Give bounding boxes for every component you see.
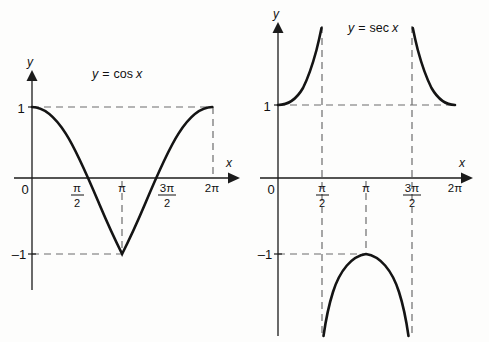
secant-branch-middle-lower	[324, 254, 409, 336]
cos-title-function: cos	[114, 67, 133, 81]
sec-xtick-two-pi: 2π	[448, 182, 462, 194]
sec-xtick-pi: π	[362, 182, 370, 194]
cos-title-variable: x	[135, 67, 143, 81]
sec-xtick-three-half-pi-denominator: 2	[409, 197, 415, 209]
figure-container: y=cosx y x 1 –1 0 π 2 π 3π 2	[0, 0, 489, 342]
sec-label-minus-one: –1	[258, 247, 272, 262]
cos-xtick-half-pi-numerator: π	[73, 182, 81, 194]
secant-chart: y=secx y x 1 –1 0 π 2 π 3π 2	[258, 7, 473, 336]
sec-title-variable: x	[391, 21, 399, 35]
sec-xtick-half-pi-numerator: π	[318, 182, 326, 194]
cos-label-origin: 0	[21, 182, 28, 197]
sec-title-function: sec	[370, 21, 389, 35]
cos-xtick-three-half-pi-denominator: 2	[164, 197, 170, 209]
sec-label-one: 1	[263, 99, 270, 114]
cos-xtick-three-half-pi: 3π 2	[158, 182, 176, 209]
cos-label-one: 1	[17, 101, 24, 116]
cos-x-axis-arrowhead	[228, 173, 240, 184]
sec-xtick-half-pi: π 2	[316, 182, 329, 209]
sec-chart-title: y=secx	[347, 21, 399, 35]
sec-label-origin: 0	[267, 182, 274, 197]
sec-title-equals: =	[358, 21, 365, 35]
cos-xtick-pi: π	[118, 182, 126, 194]
secant-branch-left-upper	[278, 28, 322, 105]
cos-label-minus-one: –1	[12, 247, 26, 262]
cos-y-axis-arrowhead	[27, 70, 38, 81]
cos-xtick-three-half-pi-numerator: 3π	[160, 182, 174, 194]
cos-xtick-half-pi: π 2	[71, 182, 84, 209]
cosine-chart: y=cosx y x 1 –1 0 π 2 π 3π 2	[12, 55, 240, 290]
sec-xtick-three-half-pi-numerator: 3π	[405, 182, 419, 194]
sec-xtick-three-half-pi: 3π 2	[403, 182, 421, 209]
secant-branch-right-upper	[413, 28, 455, 105]
cos-chart-title: y=cosx	[91, 67, 143, 81]
cos-xtick-half-pi-denominator: 2	[74, 197, 80, 209]
sec-x-axis-label: x	[458, 156, 466, 170]
cos-title-equals: =	[102, 67, 109, 81]
sec-y-axis-arrowhead	[273, 22, 284, 33]
cos-xtick-two-pi: 2π	[205, 182, 219, 194]
cos-title-y: y	[91, 67, 99, 81]
sec-title-y: y	[347, 21, 355, 35]
sec-xtick-half-pi-denominator: 2	[319, 197, 325, 209]
cos-x-axis-label: x	[225, 156, 233, 170]
sec-x-axis-arrowhead	[461, 173, 473, 184]
cos-y-axis-label: y	[26, 55, 34, 69]
sec-y-axis-label: y	[272, 7, 280, 21]
trig-graphs-svg: y=cosx y x 1 –1 0 π 2 π 3π 2	[0, 0, 489, 342]
